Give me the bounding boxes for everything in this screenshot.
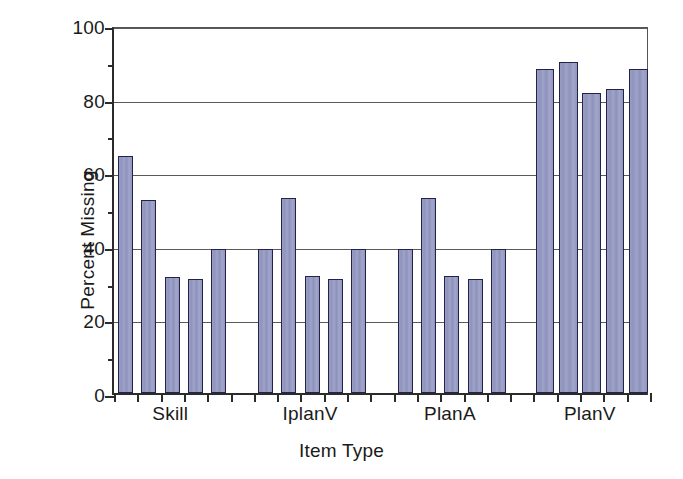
bar <box>141 200 156 393</box>
bar <box>582 93 601 393</box>
x-tick <box>510 393 512 402</box>
x-tick <box>557 393 559 402</box>
x-tick <box>231 393 233 402</box>
x-tick <box>603 393 605 402</box>
y-tick <box>105 322 114 324</box>
y-tick-label: 20 <box>83 311 105 333</box>
x-tick <box>137 393 139 402</box>
y-tick <box>105 396 114 398</box>
bar <box>629 69 648 393</box>
x-tick <box>161 393 163 402</box>
x-tick <box>370 393 372 402</box>
bar <box>305 276 320 393</box>
gridline <box>114 28 647 29</box>
y-tick <box>105 28 114 30</box>
y-tick-label: 60 <box>83 164 105 186</box>
y-tick-label: 100 <box>72 17 105 39</box>
bar <box>258 249 273 393</box>
bar <box>421 198 436 393</box>
y-tick <box>105 249 114 251</box>
bar <box>536 69 555 393</box>
bar <box>328 279 343 393</box>
x-axis-group-label: PlanV <box>564 403 616 425</box>
x-axis-title: Item Type <box>0 440 683 462</box>
x-tick <box>487 393 489 402</box>
y-tick-minor <box>108 212 114 214</box>
y-tick-minor <box>108 286 114 288</box>
y-tick-label: 0 <box>94 385 105 407</box>
x-tick <box>207 393 209 402</box>
y-tick-minor <box>108 138 114 140</box>
bar <box>188 279 203 393</box>
bar <box>491 249 506 393</box>
x-tick <box>254 393 256 402</box>
bar <box>351 249 366 393</box>
bar <box>559 62 578 393</box>
plot-area: 020406080100 <box>112 27 648 395</box>
x-tick <box>300 393 302 402</box>
bar <box>118 156 133 393</box>
x-tick <box>440 393 442 402</box>
y-tick-label: 40 <box>83 238 105 260</box>
x-tick <box>394 393 396 402</box>
x-axis-group-label: IplanV <box>283 403 338 425</box>
x-tick <box>580 393 582 402</box>
x-tick <box>114 393 116 402</box>
x-tick <box>417 393 419 402</box>
bar <box>281 198 296 393</box>
y-tick <box>105 175 114 177</box>
x-tick <box>627 393 629 402</box>
x-axis-group-label: PlanA <box>424 403 476 425</box>
bar <box>165 277 180 393</box>
bar <box>211 249 226 393</box>
x-axis-group-label: Skill <box>152 403 188 425</box>
bar <box>606 89 625 393</box>
x-tick <box>464 393 466 402</box>
x-tick <box>184 393 186 402</box>
bar-chart-figure: Percent Missing 020406080100 SkillIplanV… <box>0 0 683 479</box>
y-tick-minor <box>108 359 114 361</box>
x-tick <box>347 393 349 402</box>
y-tick <box>105 102 114 104</box>
bar <box>444 276 459 393</box>
bar <box>468 279 483 393</box>
x-tick <box>650 393 652 402</box>
y-tick-label: 80 <box>83 91 105 113</box>
x-tick <box>533 393 535 402</box>
bar <box>398 249 413 393</box>
x-tick <box>277 393 279 402</box>
x-tick <box>324 393 326 402</box>
y-tick-minor <box>108 65 114 67</box>
